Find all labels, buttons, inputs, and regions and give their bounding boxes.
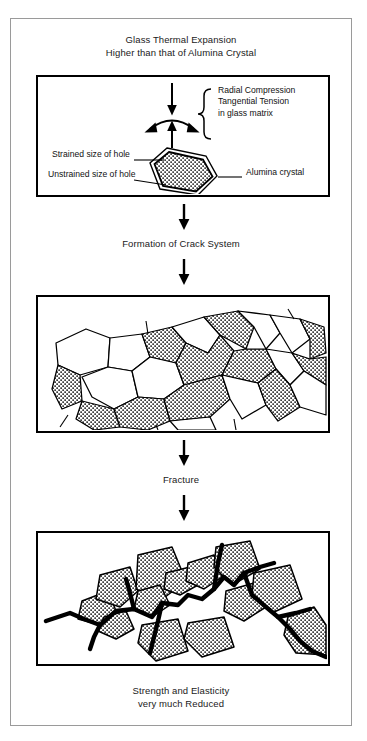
fracture-path-panel: [36, 531, 330, 666]
stress-note-line-2: Tangential Tension: [218, 96, 326, 107]
connector-label-fracture: Fracture: [11, 474, 351, 487]
down-arrow-icon: [177, 495, 191, 521]
connector-arrow-1b: [177, 259, 191, 285]
stress-note-line-3: in glass matrix: [218, 108, 326, 119]
bottom-caption-line-1: Strength and Elasticity: [11, 685, 351, 698]
down-arrow-icon: [177, 440, 191, 466]
bottom-caption: Strength and Elasticity very much Reduce…: [11, 685, 351, 710]
strained-size-label: Strained size of hole: [52, 149, 130, 160]
diagram-outer-frame: Glass Thermal Expansion Higher than that…: [10, 18, 352, 726]
top-caption-line-1: Glass Thermal Expansion: [11, 34, 351, 47]
crack-system-microstructure-panel: [36, 295, 330, 433]
connector-arrow-2: [177, 440, 191, 466]
panel3-graphic: [38, 533, 327, 663]
panel2-graphic: [38, 297, 327, 430]
top-caption-line-2: Higher than that of Alumina Crystal: [11, 47, 351, 60]
stress-note: Radial Compression Tangential Tension in…: [218, 85, 326, 119]
stress-note-line-1: Radial Compression: [218, 85, 326, 96]
unstrained-size-label: Unstrained size of hole: [48, 169, 135, 180]
connector-arrow-2b: [177, 495, 191, 521]
single-crystal-stress-panel: Radial Compression Tangential Tension in…: [36, 75, 330, 197]
bottom-caption-line-2: very much Reduced: [11, 698, 351, 711]
down-arrow-icon: [167, 83, 177, 116]
alumina-crystal-label: Alumina crystal: [246, 167, 304, 178]
connector-label-formation: Formation of Crack System: [11, 238, 351, 251]
top-caption: Glass Thermal Expansion Higher than that…: [11, 34, 351, 59]
down-arrow-icon: [177, 204, 191, 230]
up-arrow-icon: [167, 121, 177, 149]
down-arrow-icon: [177, 259, 191, 285]
brace-icon: [198, 89, 211, 139]
alumina-crystal-shape: [150, 148, 217, 194]
connector-arrow-1: [177, 204, 191, 230]
